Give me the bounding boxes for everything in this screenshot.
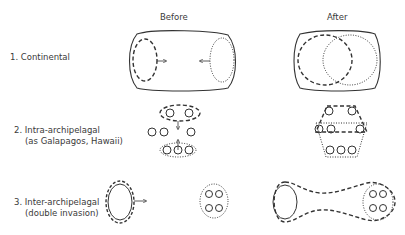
source-range-dashed — [298, 35, 352, 85]
invader-range-dotted — [316, 123, 367, 157]
invader-range-dotted — [210, 38, 234, 82]
row-1-before-diagram — [130, 31, 236, 91]
source-range-dashed — [133, 39, 157, 81]
row-2-after-diagram — [315, 106, 367, 157]
source-range-dashed — [106, 181, 134, 223]
island-outline — [108, 184, 132, 220]
invader-range-dotted — [323, 35, 377, 85]
row-1-after-diagram — [294, 31, 380, 91]
invader-range-dotted — [200, 184, 228, 218]
source-range-dashed — [316, 106, 367, 132]
row-3-after-diagram — [273, 182, 395, 222]
diagram-canvas — [0, 0, 405, 235]
row-2-before-diagram — [148, 105, 200, 157]
row-3-before-diagram — [106, 181, 228, 223]
